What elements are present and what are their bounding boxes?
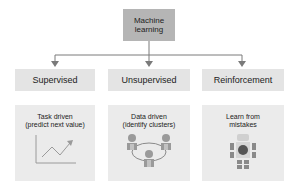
card-description: Task driven (predict next value)	[25, 113, 85, 129]
root-node-machine-learning: Machine learning	[123, 9, 175, 41]
card-description: Learn from mistakes	[226, 113, 260, 129]
people-cluster-icon	[124, 133, 174, 169]
category-unsupervised: Unsupervised	[108, 69, 190, 91]
category-label: Supervised	[32, 75, 77, 85]
card-unsupervised: Data driven (identify clusters)	[108, 105, 190, 181]
root-label: Machine learning	[134, 16, 164, 34]
card-reinforcement: Learn from mistakes	[202, 105, 284, 181]
line-chart-icon	[32, 133, 78, 167]
card-description: Data driven (identify clusters)	[123, 113, 176, 129]
card-supervised: Task driven (predict next value)	[15, 105, 95, 181]
category-label: Reinforcement	[214, 75, 273, 85]
category-supervised: Supervised	[15, 69, 95, 91]
robot-icon	[228, 133, 258, 171]
category-reinforcement: Reinforcement	[202, 69, 284, 91]
category-label: Unsupervised	[121, 75, 176, 85]
